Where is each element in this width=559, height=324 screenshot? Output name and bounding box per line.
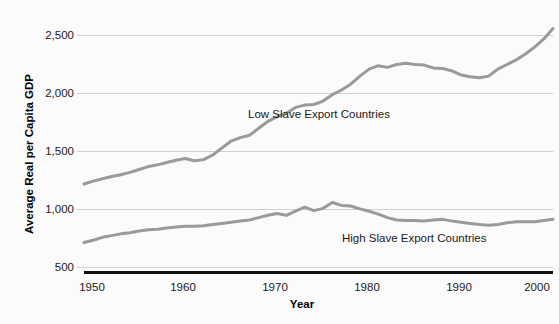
xtick-label-1980: 1980 bbox=[354, 281, 380, 293]
y-axis-title: Average Real per Capita GDP bbox=[23, 74, 35, 234]
ytick-label-2500: 2,500 bbox=[45, 29, 74, 41]
ytick-label-1000: 1,000 bbox=[45, 203, 74, 215]
series-annotation-high: High Slave Export Countries bbox=[342, 232, 487, 244]
chart-page: 2,500 2,000 1,500 1,000 500 1950 1960 19… bbox=[0, 0, 559, 324]
ytick-label-500: 500 bbox=[55, 261, 74, 273]
xtick-label-1990: 1990 bbox=[446, 281, 472, 293]
xtick-label-1970: 1970 bbox=[262, 281, 288, 293]
xtick-label-2000: 2000 bbox=[524, 281, 550, 293]
line-chart: 2,500 2,000 1,500 1,000 500 1950 1960 19… bbox=[0, 0, 559, 324]
x-axis-title: Year bbox=[290, 298, 315, 310]
xtick-label-1960: 1960 bbox=[170, 281, 196, 293]
series-annotation-low: Low Slave Export Countries bbox=[248, 108, 390, 120]
ytick-label-2000: 2,000 bbox=[45, 87, 74, 99]
series-line-low-slave-export bbox=[84, 29, 553, 184]
xtick-label-1950: 1950 bbox=[79, 281, 105, 293]
ytick-label-1500: 1,500 bbox=[45, 145, 74, 157]
y-tickmarks bbox=[77, 36, 84, 268]
